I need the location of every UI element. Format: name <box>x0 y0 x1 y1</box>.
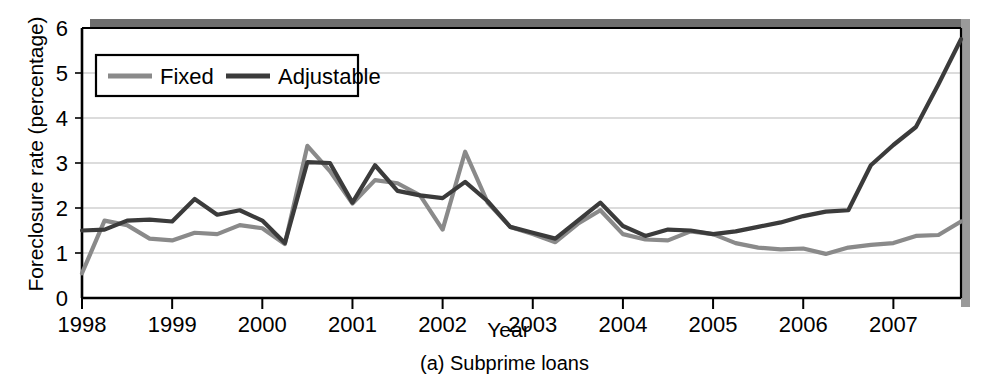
y-tick-label-3: 3 <box>56 151 68 176</box>
y-tick-label-6: 6 <box>56 16 68 41</box>
x-axis-title-text: Year <box>487 318 529 341</box>
legend-label-adjustable: Adjustable <box>278 64 381 89</box>
y-axis-title: Foreclosure rate (percentage) <box>24 14 48 294</box>
y-tick-label-5: 5 <box>56 61 68 86</box>
y-tick-label-2: 2 <box>56 196 68 221</box>
legend-label-fixed: Fixed <box>160 64 214 89</box>
y-tick-label-0: 0 <box>56 286 68 311</box>
chart-legend: Fixed Adjustable <box>96 55 381 96</box>
y-tick-label-4: 4 <box>56 106 68 131</box>
figure-subprime-loans: 0123456 19981999200020012002200320042005… <box>0 0 983 383</box>
y-tick-label-1: 1 <box>56 241 68 266</box>
y-axis-tick-labels: 0123456 <box>56 16 82 311</box>
x-axis-title: Year <box>0 318 983 342</box>
figure-caption-text: (a) Subprime loans <box>420 352 589 374</box>
x-axis-ticks <box>82 298 893 309</box>
figure-caption: (a) Subprime loans <box>0 352 983 375</box>
